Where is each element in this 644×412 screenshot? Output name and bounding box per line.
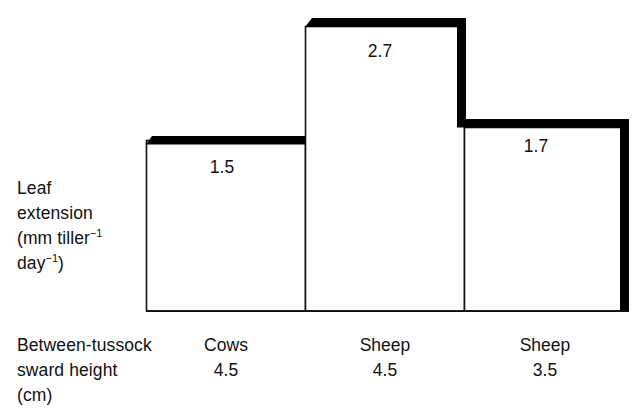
bar-2-top-shadow: [305, 18, 466, 27]
bar-3-top-shadow: [457, 119, 629, 128]
category-1-height: 4.5: [204, 358, 248, 383]
bar-group-2: [305, 18, 466, 311]
x-axis-title-line-1: Between-tussock: [17, 333, 152, 358]
category-3-animal: Sheep: [520, 333, 571, 358]
bar-value-label-3: 1.7: [524, 136, 548, 156]
category-2-animal: Sheep: [360, 333, 411, 358]
category-1-animal: Cows: [204, 333, 248, 358]
x-axis-title-line-3: (cm): [17, 383, 152, 408]
bar-2-body: [306, 27, 465, 312]
bar-value-label-2: 2.7: [368, 41, 392, 61]
bar-1-top-shadow: [146, 136, 307, 145]
category-label-3: Sheep 3.5: [520, 333, 571, 383]
x-axis-title: Between-tussock sward height (cm): [17, 333, 152, 408]
bar-value-label-1: 1.5: [210, 157, 234, 177]
bar-2-right-shadow: [457, 18, 466, 127]
bar-3-right-shadow: [620, 119, 629, 312]
bar-chart-figure: Leaf extension (mm tiller−1 day−1): [0, 0, 644, 412]
category-3-height: 3.5: [520, 358, 571, 383]
x-axis-title-line-2: sward height: [17, 358, 152, 383]
category-label-1: Cows 4.5: [204, 333, 248, 383]
category-label-2: Sheep 4.5: [360, 333, 411, 383]
category-2-height: 4.5: [360, 358, 411, 383]
